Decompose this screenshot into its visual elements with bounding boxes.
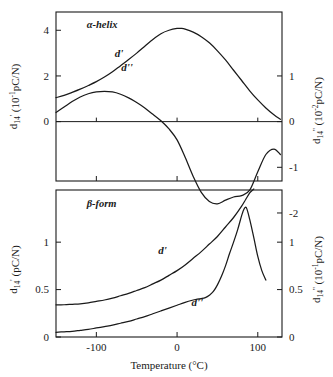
- bottom-right-tick-label: 0: [289, 331, 295, 343]
- top-left-tick-label: 4: [44, 24, 50, 36]
- curve-alpha-d-double-prime: [56, 91, 280, 203]
- panel-beta-form: 00.5100.51-1000100d'd''β-form: [35, 189, 303, 353]
- top-panel-frame: [56, 12, 282, 181]
- top-left-axis-title: d14' (10-1pC/N): [7, 63, 22, 129]
- bottom-right-axis-title: d14'' (10-1pC/N): [310, 236, 325, 303]
- figure-container: 02410-1-2d'd''α-helix00.5100.51-1000100d…: [0, 0, 333, 377]
- panel-alpha-helix: 02410-1-2d'd''α-helix: [44, 12, 299, 219]
- curve-beta-d-double-prime: [56, 207, 266, 332]
- bottom-right-tick-label: 1: [289, 236, 295, 248]
- curve-label-beta-d-double-prime: d'': [191, 296, 203, 308]
- panel-label-alpha-helix: α-helix: [87, 19, 118, 30]
- curve-label-alpha-d-prime: d': [115, 47, 124, 59]
- x-tick-label: 0: [174, 341, 180, 353]
- bottom-left-tick-label: 0: [44, 331, 50, 343]
- top-left-tick-label: 0: [44, 115, 50, 127]
- top-right-tick-label: -2: [289, 207, 298, 219]
- top-right-axis-title: d14'' (10-2pC/N): [310, 77, 325, 144]
- bottom-left-tick-label: 1: [44, 236, 50, 248]
- top-right-tick-label: 0: [289, 115, 295, 127]
- curve-label-alpha-d-double-prime: d'': [121, 61, 133, 73]
- panel-label-beta-form: β-form: [86, 198, 117, 209]
- curve-label-beta-d-prime: d': [158, 244, 167, 256]
- bottom-left-tick-label: 0.5: [35, 283, 49, 295]
- curve-alpha-d-prime: [56, 28, 280, 119]
- bottom-right-tick-label: 0.5: [289, 283, 303, 295]
- chart-svg: 02410-1-2d'd''α-helix00.5100.51-1000100d…: [0, 0, 333, 377]
- x-tick-label: -100: [86, 341, 107, 353]
- top-right-tick-label: 1: [289, 70, 295, 82]
- x-tick-label: 100: [250, 341, 267, 353]
- top-left-tick-label: 2: [44, 70, 50, 82]
- bottom-left-axis-title: d14' (pC/N): [7, 245, 22, 294]
- x-axis-title: Temperature (°C): [130, 359, 208, 372]
- curve-beta-d-prime: [56, 189, 254, 305]
- top-right-tick-label: -1: [289, 161, 298, 173]
